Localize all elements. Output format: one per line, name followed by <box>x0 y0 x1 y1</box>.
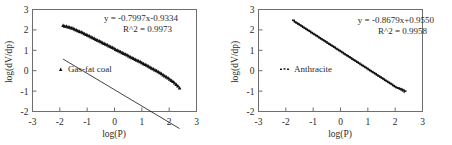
y-tick-label-right-5: -2 <box>247 107 255 117</box>
y-tick-label-left-0: 3 <box>24 5 29 15</box>
legend-left: Gas-fat coal <box>59 64 112 74</box>
x-tick-label-left-0: -3 <box>29 117 37 127</box>
legend-dash-marker-icon <box>280 68 289 70</box>
data-point <box>404 90 407 92</box>
chart-svg-anthracite: -3-2-10123 3210-1-2 log(P) log(dV/dp) y … <box>226 0 452 145</box>
legend-triangle-marker-icon <box>59 68 62 71</box>
legend-right: Anthracite <box>280 64 332 74</box>
x-tick-label-left-1: -2 <box>56 117 64 127</box>
chart-panel-gas-fat-coal: -3-2-10123 3210-1-2 log(P) log(dV/dp) y … <box>0 0 226 145</box>
y-axis-tick-labels-left: 3210-1-2 <box>21 5 29 117</box>
x-tick-label-right-0: -3 <box>255 117 263 127</box>
x-tick-label-right-5: 2 <box>393 117 398 127</box>
y-tick-label-left-1: 2 <box>24 25 29 35</box>
legend-label-right: Anthracite <box>294 64 332 74</box>
y-tick-label-right-4: -1 <box>247 87 255 97</box>
y-tick-label-right-1: 2 <box>250 25 255 35</box>
x-tick-label-right-3: 0 <box>338 117 343 127</box>
regression-equation-right: y = -0.8679x+0.9550 <box>358 15 435 25</box>
x-tick-label-left-4: 1 <box>139 117 144 127</box>
y-tick-label-right-0: 3 <box>250 5 255 15</box>
x-axis-ticks-right <box>259 108 423 112</box>
y-tick-label-left-2: 1 <box>24 46 29 56</box>
y-axis-title-left: log(dV/dp) <box>4 41 15 83</box>
regression-equation-left: y = -0.7997x-0.9334 <box>104 13 179 23</box>
y-tick-label-left-4: -1 <box>21 87 29 97</box>
data-point <box>292 20 295 22</box>
y-tick-label-right-2: 1 <box>250 46 255 56</box>
x-tick-label-right-6: 3 <box>420 117 425 127</box>
y-axis-tick-labels-right: 3210-1-2 <box>247 5 255 117</box>
x-axis-title-left: log(P) <box>102 129 126 140</box>
y-tick-label-left-5: -2 <box>21 107 29 117</box>
x-tick-label-right-1: -2 <box>282 117 290 127</box>
x-tick-label-right-2: -1 <box>309 117 317 127</box>
x-axis-title-right: log(P) <box>328 129 352 140</box>
y-tick-label-right-3: 0 <box>250 66 255 76</box>
x-tick-label-right-4: 1 <box>365 117 370 127</box>
chart-panel-anthracite: -3-2-10123 3210-1-2 log(P) log(dV/dp) y … <box>226 0 452 145</box>
x-tick-label-left-6: 3 <box>194 117 199 127</box>
y-tick-label-left-3: 0 <box>24 66 29 76</box>
legend-label-left: Gas-fat coal <box>68 64 112 74</box>
chart-svg-gas-fat-coal: -3-2-10123 3210-1-2 log(P) log(dV/dp) y … <box>0 0 226 145</box>
x-axis-ticks-left <box>33 108 197 112</box>
y-axis-ticks-left <box>33 10 37 112</box>
r-squared-right: R^2 = 0.9958 <box>378 26 428 36</box>
x-axis-tick-labels-right: -3-2-10123 <box>255 117 426 127</box>
y-axis-ticks-right <box>259 10 263 112</box>
x-tick-label-left-3: 0 <box>112 117 117 127</box>
y-axis-title-right: log(dV/dp) <box>230 41 241 83</box>
r-squared-left: R^2 = 0.9973 <box>123 24 173 34</box>
data-points-left <box>61 24 181 129</box>
figure-container: -3-2-10123 3210-1-2 log(P) log(dV/dp) y … <box>0 0 452 145</box>
x-tick-label-left-2: -1 <box>83 117 91 127</box>
